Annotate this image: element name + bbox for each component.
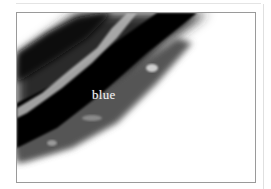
image-frame[interactable]: blue	[16, 12, 256, 183]
photo	[17, 13, 255, 182]
side-divider	[263, 4, 264, 189]
top-divider	[16, 3, 261, 4]
image-caption: blue	[92, 87, 116, 103]
